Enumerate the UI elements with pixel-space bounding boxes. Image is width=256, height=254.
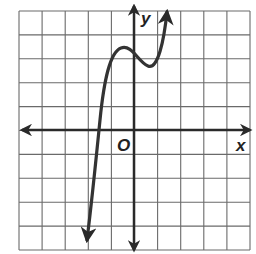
cubic-curve [87, 12, 167, 240]
coordinate-plane: y x O [0, 0, 256, 254]
x-axis-label: x [235, 136, 247, 155]
origin-label: O [117, 136, 130, 155]
y-axis-label: y [140, 9, 152, 28]
